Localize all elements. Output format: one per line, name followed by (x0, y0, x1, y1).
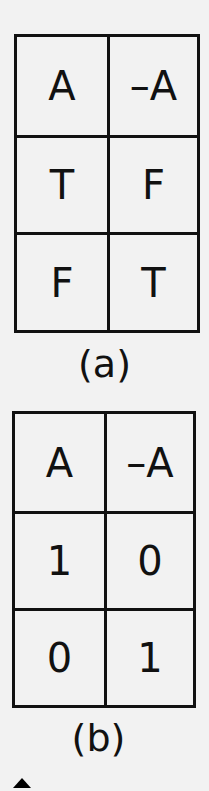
truth-table-b: A –A 1 0 0 1 (12, 411, 196, 708)
triangle-up-icon[interactable] (13, 778, 31, 788)
table-cell: 1 (104, 608, 193, 705)
table-cell: F (107, 135, 197, 233)
table-cell: F (17, 232, 107, 330)
table-cell: T (17, 135, 107, 233)
table-cell: T (107, 232, 197, 330)
table-cell: 0 (104, 511, 193, 608)
header-cell: A (17, 37, 107, 135)
caption-a: (a) (0, 342, 209, 386)
table-cell: 1 (15, 511, 104, 608)
truth-table-a: A –A T F F T (14, 34, 200, 333)
table-cell: 0 (15, 608, 104, 705)
header-cell: –A (107, 37, 197, 135)
header-cell: A (15, 414, 104, 511)
caption-b: (b) (0, 716, 203, 760)
header-cell: –A (104, 414, 193, 511)
